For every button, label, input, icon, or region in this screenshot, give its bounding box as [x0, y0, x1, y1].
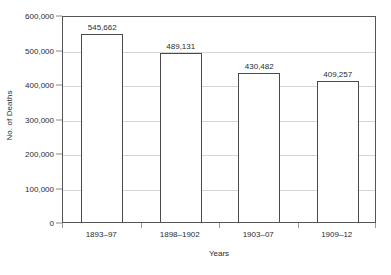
x-tick-mark	[219, 223, 220, 228]
y-tick-label: 300,000	[14, 115, 54, 124]
bar: 489,131	[160, 53, 202, 222]
bars-layer: 545,662489,131430,482409,257	[63, 17, 375, 222]
y-tick-label: 100,000	[14, 184, 54, 193]
y-tick-label: 200,000	[14, 150, 54, 159]
plot-area: 545,662489,131430,482409,257	[62, 16, 376, 223]
x-tick-label: 1893–97	[86, 230, 117, 239]
x-tick-label: 1909–12	[321, 230, 352, 239]
y-tick-label: 0	[14, 219, 54, 228]
y-tick-label: 500,000	[14, 46, 54, 55]
bar-value-label: 545,662	[88, 23, 117, 32]
x-tick-label: 1903–07	[243, 230, 274, 239]
y-tick-label: 400,000	[14, 81, 54, 90]
x-tick-mark	[62, 223, 63, 228]
x-tick-label: 1898–1902	[160, 230, 200, 239]
x-tick-mark	[141, 223, 142, 228]
bar-chart: No. of Deaths 0100,000200,000300,000400,…	[0, 0, 391, 275]
bar: 409,257	[317, 81, 359, 222]
x-axis-category-labels: 1893–971898–19021903–071909–12	[62, 230, 376, 244]
y-axis-title-text: No. of Deaths	[5, 90, 14, 140]
x-tick-mark	[298, 223, 299, 228]
bar: 430,482	[238, 73, 280, 222]
y-tick-label: 600,000	[14, 12, 54, 21]
bar: 545,662	[81, 34, 123, 222]
x-axis-title: Years	[62, 249, 376, 258]
bar-value-label: 409,257	[323, 70, 352, 79]
y-axis-tick-labels: 0100,000200,000300,000400,000500,000600,…	[14, 16, 54, 223]
bar-value-label: 489,131	[166, 42, 195, 51]
x-tick-mark	[375, 223, 376, 228]
x-axis-tick-marks	[62, 223, 376, 228]
bar-value-label: 430,482	[245, 62, 274, 71]
